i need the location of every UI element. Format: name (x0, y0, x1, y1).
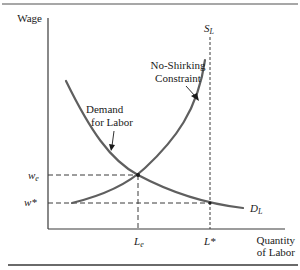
labor-equilibrium-label: Le (133, 235, 144, 249)
labor-star-label: L* (203, 235, 216, 247)
demand-arrowhead-icon (109, 144, 115, 151)
demand-end-label: DL (249, 202, 263, 216)
wage-efficiency-label: we (28, 169, 39, 183)
nsc-label-line2: Constraint (155, 72, 201, 84)
wage-star-label: w* (24, 196, 37, 208)
equilibrium-point (136, 173, 140, 177)
nsc-pointer-arrow (186, 86, 195, 96)
x-axis-label-line2: of Labor (257, 246, 296, 258)
demand-label-line2: for Labor (91, 116, 133, 128)
demand-label-line1: Demand (86, 103, 124, 115)
demand-pointer-arrow (112, 131, 114, 146)
labor-supply-label: SL (204, 22, 215, 36)
labor-market-diagram: Wage Quantity of Labor SL Demand for Lab… (0, 0, 300, 270)
demand-curve (66, 81, 243, 208)
nsc-label-line1: No-Shirking (151, 59, 207, 71)
y-axis-label: Wage (17, 12, 42, 24)
x-axis-label-line1: Quantity (257, 234, 296, 246)
full-employment-point (208, 201, 211, 204)
